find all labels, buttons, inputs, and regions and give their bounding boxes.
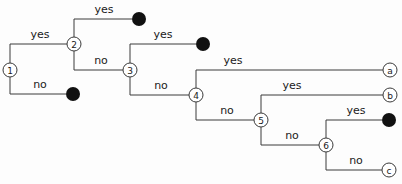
- edge-label-no: no: [349, 154, 363, 167]
- edge-label-yes: yes: [346, 104, 365, 117]
- node-number-label: 6: [323, 141, 329, 151]
- edge-label-no: no: [33, 78, 47, 91]
- leaf-letter-label: a: [387, 66, 393, 76]
- leaf-node-c: c: [382, 163, 396, 177]
- filled-leaf-node: [382, 113, 396, 127]
- node-number-label: 2: [71, 40, 77, 50]
- decision-node-2: 2: [67, 37, 81, 51]
- node-number-label: 1: [7, 66, 13, 76]
- decision-node-4: 4: [189, 88, 203, 102]
- decision-node-5: 5: [254, 113, 268, 127]
- filled-leaf-node: [196, 37, 210, 51]
- decision-tree-diagram: yesnoyesnoyesnoyesnoyesnoyesno 123456 ab…: [0, 0, 402, 184]
- edge-label-yes: yes: [282, 79, 301, 92]
- edge-label-yes: yes: [153, 28, 172, 41]
- filled-leaf-node: [66, 87, 80, 101]
- leaf-letter-label: b: [387, 91, 393, 101]
- edge-label-no: no: [154, 79, 168, 92]
- node-number-label: 4: [193, 91, 199, 101]
- filled-leaf-node: [132, 12, 146, 26]
- node-number-label: 3: [127, 66, 133, 76]
- decision-node-1: 1: [3, 63, 17, 77]
- tree-canvas: yesnoyesnoyesnoyesnoyesnoyesno 123456 ab…: [0, 0, 402, 184]
- edge-label-yes: yes: [94, 3, 113, 16]
- edge-label-yes: yes: [223, 54, 242, 67]
- leaf-letter-label: c: [387, 166, 392, 176]
- edge-label-yes: yes: [30, 28, 49, 41]
- decision-node-3: 3: [123, 63, 137, 77]
- edge-label-no: no: [94, 54, 108, 67]
- leaf-node-a: a: [383, 63, 397, 77]
- decision-node-6: 6: [319, 138, 333, 152]
- edge-label-no: no: [285, 129, 299, 142]
- leaf-node-b: b: [383, 88, 397, 102]
- node-number-label: 5: [258, 116, 264, 126]
- edge-label-no: no: [220, 104, 234, 117]
